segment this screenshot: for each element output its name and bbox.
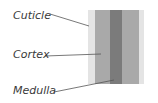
cuticle-leader-line xyxy=(50,14,89,26)
hair-structure-diagram: Cuticle Cortex Medulla xyxy=(0,0,158,103)
cortex-leader-line xyxy=(45,54,101,56)
cortex-label: Cortex xyxy=(13,49,50,61)
cuticle-label: Cuticle xyxy=(13,10,51,22)
medulla-leader-line xyxy=(54,80,114,92)
medulla-label: Medulla xyxy=(13,85,56,97)
